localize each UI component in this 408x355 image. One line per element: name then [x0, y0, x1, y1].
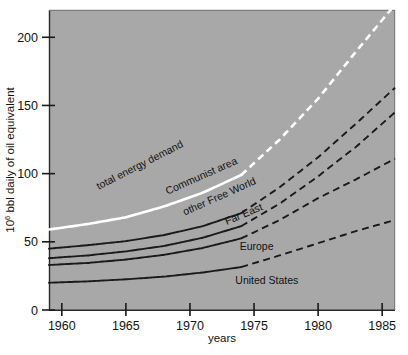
y-axis-title: 106 bbl daily of oil equivalent: [3, 86, 16, 232]
x-tick-label: 1970: [176, 319, 204, 333]
series-label-united-states: United States: [235, 274, 298, 286]
x-axis-title: years: [208, 332, 236, 344]
svg-text:106 bbl daily of oil equivalen: 106 bbl daily of oil equivalent: [3, 86, 16, 232]
x-tick-label: 1980: [304, 319, 332, 333]
x-tick-label: 1985: [368, 319, 396, 333]
y-tick-label: 150: [17, 99, 38, 113]
x-tick-label: 1965: [112, 319, 140, 333]
y-tick-label: 0: [31, 304, 38, 318]
x-tick-label: 1960: [48, 319, 76, 333]
y-tick-label: 100: [17, 167, 38, 181]
y-tick-label: 50: [24, 235, 38, 249]
energy-demand-line-chart: 050100150200 196019651970197519801985 to…: [0, 0, 408, 355]
chart-page: 050100150200 196019651970197519801985 to…: [0, 0, 408, 355]
svg-text:Europe: Europe: [240, 240, 274, 252]
series-label-europe: Europe: [240, 240, 274, 252]
svg-text:United States: United States: [235, 274, 298, 286]
x-tick-label: 1975: [240, 319, 268, 333]
y-tick-label: 200: [17, 31, 38, 45]
